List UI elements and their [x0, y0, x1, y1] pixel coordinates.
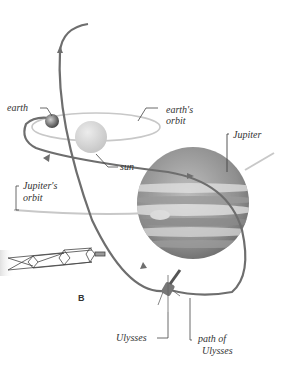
jupiters-orbit-label-line1: Jupiter's [23, 180, 57, 191]
path-arrow-up [57, 46, 63, 53]
jupiter-label: Jupiter [233, 129, 261, 140]
path-arrow-left [43, 154, 50, 162]
ulysses-leader [157, 312, 168, 338]
sun [75, 121, 107, 153]
earth [45, 114, 59, 128]
sun-label: sun [120, 161, 134, 172]
jupiter-planet [115, 147, 270, 259]
path-arrow-mid [140, 262, 147, 269]
earths-orbit-label-line1: earth's [166, 104, 193, 115]
jupiters-orbit [14, 210, 150, 214]
spacecraft-boom [0, 248, 105, 276]
path-of-ulysses-leader [190, 298, 192, 340]
earths-orbit-label-line2: orbit [166, 115, 185, 126]
earth-label: earth [7, 102, 28, 113]
path-of-ulysses-label-line2: Ulysses [202, 345, 233, 356]
path-of-ulysses-label-line1: path of [198, 333, 226, 344]
jupiters-orbit-right [245, 153, 274, 170]
jupiters-orbit-label-line2: orbit [23, 192, 42, 203]
ulysses-label: Ulysses [116, 332, 147, 343]
jupiters-orbit-bracket [16, 186, 19, 210]
panel-letter: B [78, 293, 85, 303]
